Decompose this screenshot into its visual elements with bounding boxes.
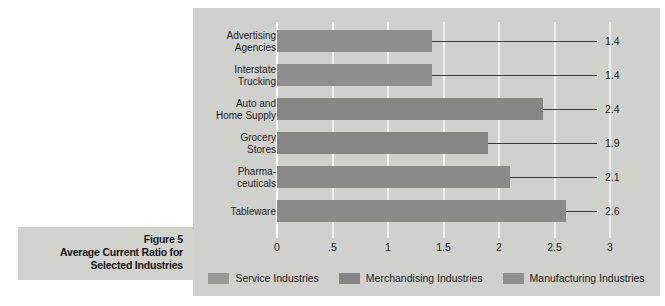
chart-panel: 0.511.522.53Advertising Agencies1.4Inter… [193,8,660,296]
bar[interactable] [277,132,488,154]
bar-value-label: 2.6 [605,205,620,217]
category-label: Grocery Stores [240,132,276,155]
value-leader-line [566,211,597,212]
legend-label: Manufacturing Industries [530,272,645,284]
bar[interactable] [277,200,566,222]
bar[interactable] [277,64,432,86]
bar[interactable] [277,166,510,188]
value-leader-line [488,143,597,144]
bar-value-label: 1.4 [605,69,620,81]
value-leader-line [432,41,597,42]
bar-value-label: 1.9 [605,137,620,149]
x-axis-tick-label: 0 [274,241,280,253]
figure-caption: Figure 5 Average Current Ratio for Selec… [18,227,193,280]
x-axis-tick-label: 2.5 [547,241,562,253]
figure-caption-line-2: Average Current Ratio for [18,246,183,259]
legend-label: Service Industries [235,272,318,284]
figure-caption-line-3: Selected Industries [18,259,183,272]
x-axis-tick-label: 1 [385,241,391,253]
category-label: Tableware [230,206,276,218]
category-label: Auto and Home Supply [216,98,276,121]
bar-value-label: 2.4 [605,103,620,115]
chart-legend: Service IndustriesMerchandising Industri… [193,272,660,284]
legend-swatch-icon [503,273,524,284]
legend-item[interactable]: Merchandising Industries [339,272,483,284]
bar[interactable] [277,30,432,52]
figure-caption-line-1: Figure 5 [18,233,183,246]
value-leader-line [432,75,597,76]
legend-item[interactable]: Manufacturing Industries [503,272,645,284]
x-axis-tick-label: 2 [496,241,502,253]
bar-value-label: 2.1 [605,171,620,183]
bar[interactable] [277,98,543,120]
plot-area: 0.511.522.53Advertising Agencies1.4Inter… [193,8,660,296]
x-axis-tick-label: 3 [607,241,613,253]
legend-item[interactable]: Service Industries [208,272,318,284]
legend-label: Merchandising Industries [366,272,483,284]
category-label: Interstate Trucking [234,64,276,87]
x-axis-tick-label: .5 [328,241,337,253]
value-leader-line [510,177,597,178]
category-label: Pharma- ceuticals [237,166,276,189]
legend-swatch-icon [208,273,229,284]
bar-value-label: 1.4 [605,35,620,47]
x-axis-tick-label: 1.5 [436,241,451,253]
legend-swatch-icon [339,273,360,284]
value-leader-line [543,109,597,110]
category-label: Advertising Agencies [227,30,276,53]
